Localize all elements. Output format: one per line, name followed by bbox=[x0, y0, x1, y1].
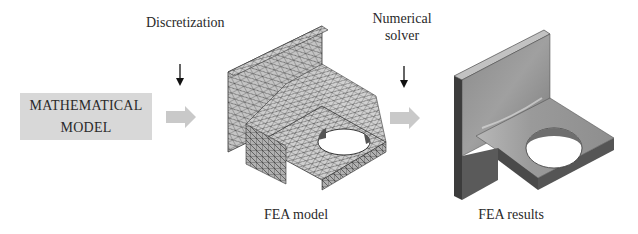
mathematical-model-box: MATHEMATICAL MODEL bbox=[20, 93, 152, 140]
discretization-label: Discretization bbox=[146, 14, 220, 31]
block-arrow-1-icon bbox=[166, 106, 198, 128]
fea-results-caption: FEA results bbox=[474, 206, 548, 223]
discretization-down-arrow-icon bbox=[174, 64, 186, 88]
numerical-solver-line1: Numerical bbox=[368, 10, 436, 27]
fea-results-image bbox=[452, 28, 618, 192]
block-arrow-2-icon bbox=[390, 107, 422, 129]
numerical-solver-label: Numerical solver bbox=[368, 10, 436, 44]
fea-model-caption: FEA model bbox=[258, 206, 334, 223]
fea-mesh-model-image bbox=[226, 24, 398, 184]
solver-down-arrow-icon bbox=[398, 66, 410, 90]
math-model-line2: MODEL bbox=[61, 117, 112, 139]
math-model-line1: MATHEMATICAL bbox=[30, 95, 143, 117]
numerical-solver-line2: solver bbox=[368, 27, 436, 44]
